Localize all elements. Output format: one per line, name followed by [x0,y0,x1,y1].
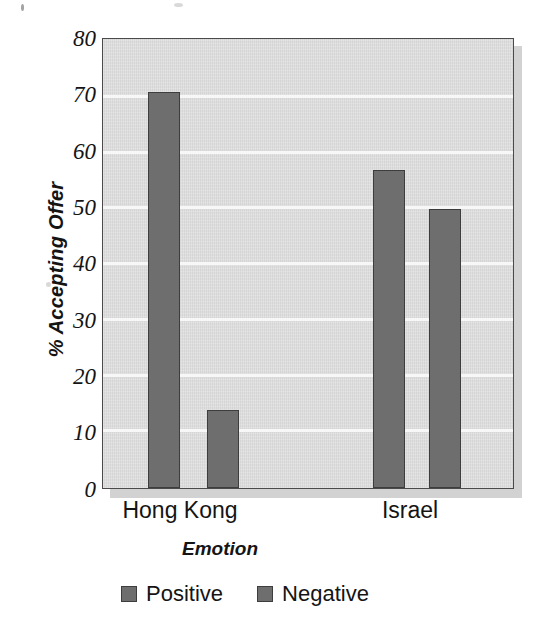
legend-item-negative[interactable]: Negative [257,583,369,605]
y-tick-label: 40 [52,252,96,275]
chart-legend: Positive Negative [0,583,490,605]
y-tick-label: 80 [52,27,96,50]
x-tick-label-israel: Israel [330,497,490,524]
bar-israel-negative [429,209,461,488]
legend-item-positive[interactable]: Positive [121,583,223,605]
legend-swatch-positive [121,586,137,602]
legend-label-positive: Positive [146,583,223,605]
bar-hong-kong-positive [148,92,180,488]
x-tick-label-hong-kong: Hong Kong [90,497,270,524]
y-tick-label: 50 [52,196,96,219]
scan-artifact [21,4,24,11]
y-tick-label: 70 [52,83,96,106]
scan-artifact [174,3,183,7]
plot-area [102,38,514,489]
y-tick-label: 30 [52,309,96,332]
x-axis-title: Emotion [102,538,338,560]
y-tick-label: 10 [52,421,96,444]
bar-chart-figure: % Accepting Offer 80 70 60 50 40 30 20 1… [0,0,552,635]
y-tick-label: 60 [52,140,96,163]
bar-hong-kong-negative [207,410,239,488]
bar-israel-positive [373,170,405,488]
y-tick-label: 20 [52,365,96,388]
legend-swatch-negative [257,586,273,602]
y-axis-tick-labels: 80 70 60 50 40 30 20 10 0 [48,0,96,635]
legend-label-negative: Negative [282,583,369,605]
